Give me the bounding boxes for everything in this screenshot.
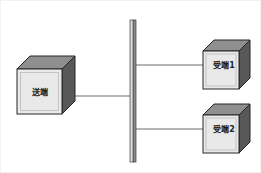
bus-bar[interactable] <box>130 20 136 162</box>
node-receiver-2[interactable] <box>203 104 250 153</box>
receiver-2-cube-front-face <box>203 115 239 153</box>
diagram-canvas <box>1 1 261 173</box>
network-diagram: 送端 受端1 受端2 <box>0 0 261 173</box>
node-receiver-1[interactable] <box>203 40 250 89</box>
sender-cube-front-face <box>17 69 62 114</box>
node-sender[interactable] <box>17 56 75 114</box>
bus-bar-side <box>133 20 136 162</box>
receiver-1-cube-front-face <box>203 51 239 89</box>
bus-bar-front <box>130 20 133 162</box>
